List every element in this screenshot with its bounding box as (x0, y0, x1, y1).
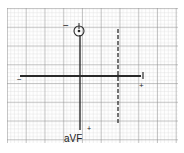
avf-label: aVF (64, 133, 82, 144)
ecg-grid-diagram: − + − + aVF (0, 0, 184, 153)
lead-i-positive-label: + (139, 81, 144, 90)
circle-dot (78, 30, 81, 33)
avf-negative-label: − (63, 20, 69, 31)
intersection-dot (117, 75, 120, 78)
avf-positive-label: + (87, 125, 91, 132)
lead-i-negative-label: − (17, 75, 22, 84)
